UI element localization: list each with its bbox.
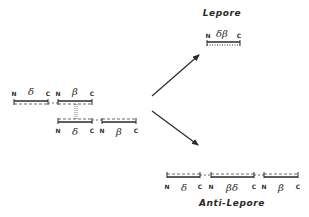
top-c2-label: C (90, 91, 94, 97)
anti-beta-delta-label: βδ (226, 183, 238, 193)
anti-beta-label: β (278, 183, 284, 193)
lepore-title: Lepore (203, 9, 242, 18)
bottom-c2-label: C (134, 128, 138, 134)
anti-lepore-title: Anti-Lepore (199, 199, 265, 208)
anti-c3-label: C (296, 184, 300, 190)
lepore-c-label: C (237, 33, 241, 39)
bottom-delta-label: δ (72, 127, 78, 137)
top-chromosome (14, 99, 92, 105)
top-c1-label: C (46, 91, 50, 97)
crossover-link (75, 104, 77, 120)
anti-n2-label: N (208, 184, 213, 190)
bottom-n2-label: N (99, 128, 104, 134)
anti-c1-label: C (198, 184, 202, 190)
lepore-delta-beta-label: δβ (216, 29, 228, 39)
bottom-chromosome (58, 118, 136, 124)
anti-delta-label: δ (181, 183, 187, 193)
top-delta-label: δ (28, 87, 34, 97)
bottom-beta-label: β (116, 127, 122, 137)
anti-n1-label: N (164, 184, 169, 190)
lepore-n-label: N (205, 33, 210, 39)
bottom-n1-label: N (55, 128, 60, 134)
top-n1-label: N (11, 91, 16, 97)
anti-lepore-chromosome (167, 172, 298, 178)
arrow-to-lepore (152, 55, 199, 96)
anti-c2-label: C (252, 184, 256, 190)
top-n2-label: N (55, 91, 60, 97)
lepore-chromosome (207, 40, 240, 46)
anti-n3-label: N (261, 184, 266, 190)
bottom-c1-label: C (90, 128, 94, 134)
arrow-to-anti-lepore (152, 111, 198, 145)
top-beta-label: β (72, 87, 78, 97)
